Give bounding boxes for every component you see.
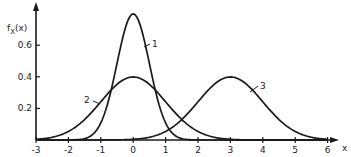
- curves: [36, 14, 328, 140]
- y-tick-label: 0.2: [18, 103, 32, 113]
- y-tick-label: 0.6: [18, 40, 33, 50]
- x-tick-label: 2: [195, 145, 201, 155]
- x-tick-label: 0: [130, 145, 136, 155]
- x-axis-arrow-icon: [330, 137, 339, 143]
- x-tick-label: 3: [228, 145, 234, 155]
- x-tick-label: 6: [325, 145, 331, 155]
- curve-1-label: 1: [152, 39, 158, 49]
- curve-2: [36, 77, 328, 140]
- x-tick-label: -1: [96, 145, 105, 155]
- y-axis-arrow-icon: [33, 2, 39, 11]
- x-axis-label: x: [342, 143, 348, 153]
- axes: [33, 2, 339, 143]
- x-tick-label: 4: [260, 145, 266, 155]
- curve-2-label: 2: [84, 95, 90, 105]
- curve-1: [36, 14, 328, 140]
- x-tick-label: 5: [292, 145, 298, 155]
- x-tick-label: 1: [163, 145, 169, 155]
- density-chart: -3-2-10123456 0.20.40.6 fX(x) x 1 2 3: [0, 0, 351, 157]
- x-tick-label: -3: [32, 145, 41, 155]
- curve-2-leader: [93, 101, 100, 104]
- y-axis-label: fX(x): [7, 23, 27, 36]
- y-tick-label: 0.4: [18, 72, 33, 82]
- curve-3: [36, 77, 328, 140]
- curve-3-label: 3: [260, 81, 266, 91]
- x-tick-label: -2: [64, 145, 73, 155]
